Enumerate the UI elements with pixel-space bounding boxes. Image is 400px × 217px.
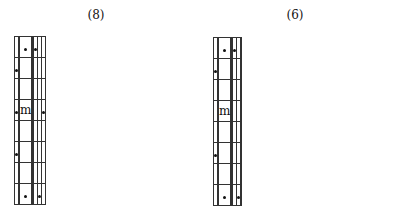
board-title: (8) — [14, 8, 178, 22]
grid-row: m — [15, 100, 46, 121]
grid-cell — [20, 142, 32, 163]
board-grid: m — [213, 37, 242, 206]
star-mark-icon — [233, 49, 236, 52]
grid-cell: m — [20, 100, 32, 121]
grid-row — [214, 164, 242, 185]
grid-cell — [42, 37, 46, 58]
star-mark-icon — [15, 111, 18, 114]
grid-row — [15, 121, 46, 142]
grid-cell — [20, 184, 32, 205]
grid-cell — [42, 100, 46, 121]
grid-row — [214, 122, 242, 143]
star-mark-icon — [24, 195, 27, 198]
star-mark-icon — [214, 154, 217, 157]
grid-row — [214, 59, 242, 80]
grid-cell — [219, 122, 231, 143]
star-mark-icon — [42, 111, 45, 114]
grid-cell — [42, 163, 46, 184]
grid-row — [15, 37, 46, 58]
star-mark-icon — [38, 195, 41, 198]
grid-cell — [219, 164, 231, 185]
grid-cell — [42, 184, 46, 205]
grid-cell — [241, 59, 242, 80]
grid-cell — [42, 142, 46, 163]
grid-cell — [20, 58, 32, 79]
star-mark-icon — [223, 196, 226, 199]
grid-row — [214, 38, 242, 59]
star-mark-icon — [214, 70, 217, 73]
star-mark-icon — [15, 153, 18, 156]
letter-mark: m — [20, 103, 31, 117]
grid-cell: m — [219, 101, 231, 122]
grid-row — [214, 185, 242, 206]
star-mark-icon — [24, 48, 27, 51]
grid-cell — [20, 37, 32, 58]
grid-row — [15, 79, 46, 100]
grid-cell — [241, 122, 242, 143]
letter-mark: m — [219, 104, 230, 118]
grid-cell — [219, 38, 231, 59]
grid-cell — [42, 79, 46, 100]
grid-cell — [20, 163, 32, 184]
grid-row — [15, 142, 46, 163]
board-grid: m — [14, 36, 46, 205]
grid-cell — [241, 80, 242, 101]
grid-cell — [241, 143, 242, 164]
grid-row — [214, 143, 242, 164]
grid-cell — [219, 59, 231, 80]
star-mark-icon — [237, 196, 240, 199]
board-title: (6) — [213, 8, 377, 22]
grid-cell — [241, 38, 242, 59]
grid-row: m — [214, 101, 242, 122]
grid-row — [214, 80, 242, 101]
star-mark-icon — [15, 69, 18, 72]
grid-row — [15, 58, 46, 79]
grid-cell — [219, 185, 231, 206]
star-mark-icon — [223, 49, 226, 52]
grid-row — [15, 163, 46, 184]
grid-cell — [241, 164, 242, 185]
star-mark-icon — [34, 48, 37, 51]
grid-cell — [20, 121, 32, 142]
grid-cell — [241, 185, 242, 206]
grid-cell — [219, 143, 231, 164]
grid-cell — [219, 80, 231, 101]
grid-row — [15, 184, 46, 205]
grid-cell — [42, 58, 46, 79]
grid-cell — [241, 101, 242, 122]
grid-cell — [42, 121, 46, 142]
grid-cell — [20, 79, 32, 100]
